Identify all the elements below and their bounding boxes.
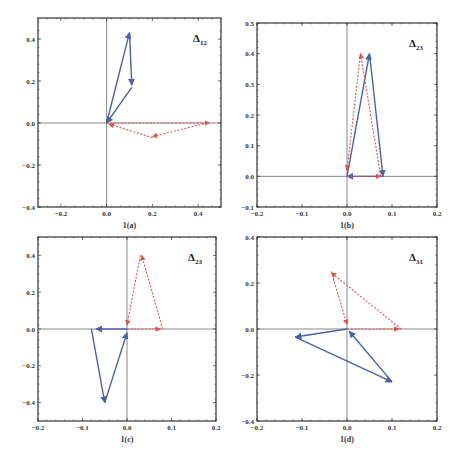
y-tick-label: 0.0 [245,173,254,181]
y-tick-label: 0.4 [26,252,35,260]
x-tick-label: −0.1 [76,424,89,432]
y-tick-label: −0.2 [22,362,35,370]
blue-solid-arrow [370,54,384,177]
red-dashed-arrow [142,255,163,329]
x-tick-label: 0.2 [433,424,442,432]
red-dashed-arrow [361,54,381,177]
red-dashed-arrow [127,255,140,325]
panel-d: −0.2−0.10.00.10.2−0.4−0.20.00.20.41(d)Δ3… [241,234,442,445]
panel-label-a: 1(a) [123,221,137,230]
y-tick-label: 0.0 [26,120,35,128]
blue-solid-arrow [91,329,104,403]
x-tick-label: −0.1 [296,210,309,218]
delta-label: Δ31 [409,251,423,266]
blue-solid-arrow [105,333,127,403]
y-tick-label: 0.0 [26,326,35,334]
y-tick-label: 0.5 [245,20,254,28]
blue-solid-arrow [130,33,132,85]
red-dashed-arrow [109,124,152,138]
y-tick-label: −0.2 [22,162,35,170]
blue-solid-arrow [295,337,392,382]
y-tick-label: 0.4 [245,50,254,58]
blue-solid-arrow [295,329,347,337]
y-tick-label: 0.2 [245,280,254,288]
panel-c: −0.2−0.10.00.10.2−0.4−0.20.00.20.41(c)Δ2… [22,237,221,444]
x-tick-label: 0.0 [343,210,352,218]
x-tick-label: 0.1 [388,424,397,432]
x-tick-label: 0.0 [123,424,132,432]
panel-a: −0.20.00.20.4−0.4−0.20.00.20.41(a)Δ12 [22,18,221,230]
panel-label-b: 1(b) [340,221,354,230]
delta-label: Δ12 [193,32,207,47]
y-tick-label: 0.1 [245,142,254,150]
x-tick-label: 0.2 [212,424,221,432]
panel-b: −0.2−0.10.00.10.2−0.10.00.10.20.30.40.51… [241,20,442,231]
y-tick-label: −0.4 [22,204,35,212]
y-tick-label: 0.4 [245,234,254,242]
delta-label: Δ23 [409,37,423,52]
red-dashed-arrow [152,123,207,137]
blue-solid-arrow [349,331,392,382]
panel-label-d: 1(d) [340,435,354,444]
y-tick-label: −0.4 [241,418,254,426]
x-tick-label: 0.2 [433,210,442,218]
y-tick-label: −0.4 [22,399,35,407]
y-tick-label: 0.4 [26,36,35,44]
x-tick-label: −0.1 [296,424,309,432]
blue-solid-arrow [107,33,130,123]
x-tick-label: −0.2 [32,424,45,432]
x-tick-label: 0.2 [148,210,157,218]
blue-solid-arrow [107,87,132,123]
y-tick-label: 0.0 [245,326,254,334]
figure-canvas: −0.20.00.20.4−0.4−0.20.00.20.41(a)Δ12 −0… [0,0,460,460]
x-tick-label: 0.1 [388,210,397,218]
x-tick-label: 0.0 [343,424,352,432]
y-tick-label: 0.2 [26,78,35,86]
x-tick-label: 0.4 [194,210,203,218]
y-tick-label: 0.3 [245,81,254,89]
x-tick-label: 0.0 [102,210,111,218]
red-dashed-arrow [331,273,401,329]
delta-label: Δ23 [188,251,202,266]
panel-label-c: 1(c) [121,435,134,444]
y-tick-label: 0.2 [245,112,254,120]
y-tick-label: −0.1 [241,204,254,212]
x-tick-label: 0.1 [167,424,176,432]
y-tick-label: 0.2 [26,289,35,297]
y-tick-label: −0.2 [241,372,254,380]
x-tick-label: −0.2 [55,210,68,218]
